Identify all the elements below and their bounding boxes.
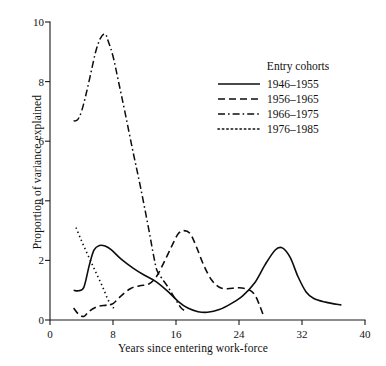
y-tick-label: 2	[20, 255, 44, 266]
legend-line-swatch-solid	[216, 78, 262, 90]
x-tick-label: 40	[360, 329, 371, 340]
legend-item[interactable]: 1966–1975	[216, 106, 366, 121]
series-line-1956-1965	[74, 231, 264, 317]
legend-title: Entry cohorts	[216, 60, 366, 72]
figure-container: Proportion of variance explained Years s…	[0, 0, 386, 366]
figure-caption	[12, 358, 386, 366]
legend-line-swatch-dotted	[216, 123, 262, 135]
legend-item-label: 1966–1975	[262, 108, 319, 120]
legend-line-swatch-dashdot	[216, 108, 262, 120]
series-line-1976-1985	[76, 228, 114, 308]
series-line-1966-1975	[74, 34, 186, 311]
legend-item[interactable]: 1956–1965	[216, 91, 366, 106]
legend-item-label: 1956–1965	[262, 93, 319, 105]
x-tick-label: 32	[297, 329, 308, 340]
y-tick-label: 8	[20, 76, 44, 87]
legend-line-swatch-dashed	[216, 93, 262, 105]
y-tick-label: 0	[20, 315, 44, 326]
x-tick-label: 24	[234, 329, 245, 340]
y-tick-label: 4	[20, 195, 44, 206]
legend-item-label: 1976–1985	[262, 123, 319, 135]
chart-plot-area	[0, 0, 386, 366]
legend-item[interactable]: 1946–1955	[216, 76, 366, 91]
x-tick-label: 8	[110, 329, 116, 340]
x-tick-label: 16	[171, 329, 182, 340]
legend-rows: 1946–19551956–19651966–19751976–1985	[216, 76, 366, 136]
legend-item[interactable]: 1976–1985	[216, 121, 366, 136]
legend-item-label: 1946–1955	[262, 78, 319, 90]
x-axis-title: Years since entering work-force	[0, 342, 386, 354]
y-tick-label: 6	[20, 136, 44, 147]
y-tick-label: 10	[20, 17, 44, 28]
x-tick-label: 0	[47, 329, 53, 340]
chart-legend: Entry cohorts 1946–19551956–19651966–197…	[216, 60, 366, 136]
